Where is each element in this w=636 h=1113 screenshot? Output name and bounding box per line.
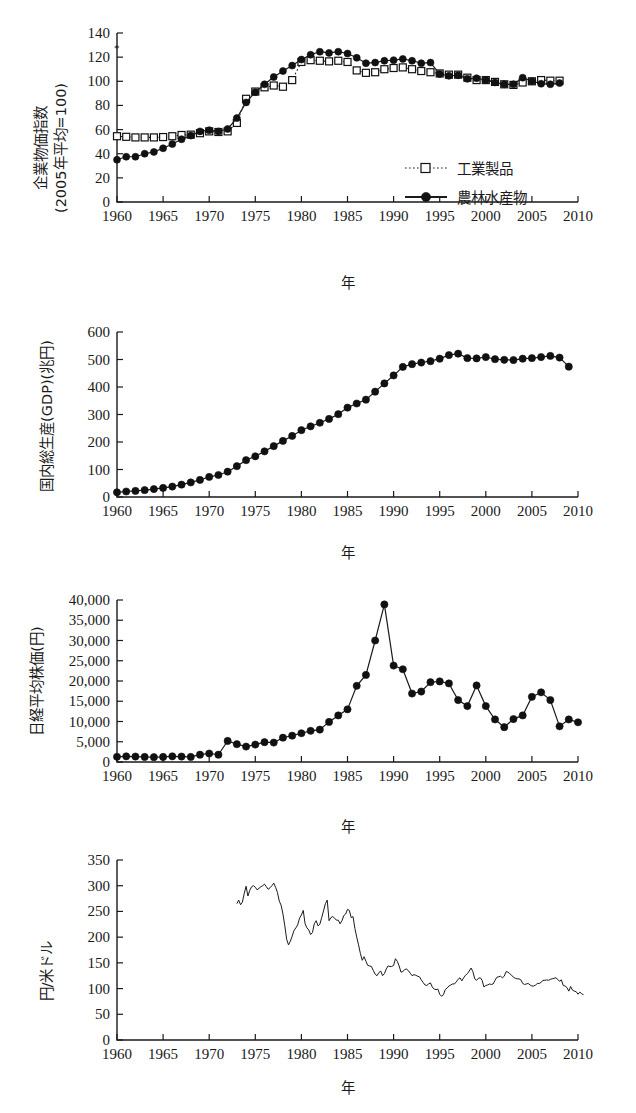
gdp-data-point <box>510 356 517 363</box>
panel-fx: 050100150200250300350 196019651970197519… <box>0 843 636 1113</box>
cgpi-y-axis-label-line2: (2005年平均=100) <box>53 83 69 213</box>
nikkei-y-tick-labels: 05,00010,00015,00020,00025,00030,00035,0… <box>69 592 110 770</box>
legend-label-agriculture: 農林水産物 <box>457 190 527 206</box>
fx-x-tick-label: 1980 <box>286 1046 316 1062</box>
cgpi-data-point <box>123 153 130 160</box>
nikkei-data-point <box>196 751 203 758</box>
fx-y-tick-label: 200 <box>88 929 111 945</box>
cgpi-data-point <box>169 133 176 140</box>
gdp-data-point <box>381 380 388 387</box>
nikkei-data-point <box>482 703 489 710</box>
cgpi-data-point <box>316 57 323 64</box>
nikkei-data-point <box>574 719 581 726</box>
cgpi-data-point <box>123 133 130 140</box>
cgpi-data-point <box>132 134 139 141</box>
fx-y-tick-label: 300 <box>88 878 111 894</box>
cgpi-data-point <box>150 148 157 155</box>
cgpi-data-point <box>132 153 139 160</box>
cgpi-data-point <box>243 99 250 106</box>
gdp-data-point <box>501 356 508 363</box>
gdp-data-point <box>261 448 268 455</box>
fx-x-axis-label: 年 <box>341 1080 355 1096</box>
cgpi-data-point <box>178 136 185 143</box>
nikkei-x-tick-label: 1995 <box>425 768 455 784</box>
cgpi-data-point <box>492 79 499 86</box>
cgpi-line-農林水産物 <box>117 52 560 160</box>
cgpi-data-point <box>289 77 296 84</box>
fx-y-axis-label: 円/米ドル <box>39 941 55 1002</box>
nikkei-axis-lines <box>117 600 578 762</box>
gdp-y-tick-label: 600 <box>88 324 111 340</box>
nikkei-y-tick-label: 5,000 <box>76 734 110 750</box>
nikkei-chart: 05,00010,00015,00020,00025,00030,00035,0… <box>0 570 636 843</box>
nikkei-data-point <box>307 727 314 734</box>
cgpi-x-tick-label: 1985 <box>333 208 363 224</box>
gdp-data-point <box>408 361 415 368</box>
cgpi-x-tick-label: 1995 <box>425 208 455 224</box>
gdp-data-point <box>473 355 480 362</box>
cgpi-data-point <box>344 58 351 65</box>
nikkei-data-point <box>519 712 526 719</box>
cgpi-data-point <box>390 57 397 64</box>
nikkei-data-point <box>279 734 286 741</box>
cgpi-line-工業製品 <box>117 60 560 137</box>
cgpi-data-point <box>519 74 526 81</box>
gdp-data-point <box>113 489 120 496</box>
cgpi-y-tick-label: 60 <box>95 122 110 138</box>
cgpi-data-point <box>362 60 369 67</box>
cgpi-data-point <box>326 58 333 65</box>
gdp-data-point <box>150 485 157 492</box>
cgpi-data-point <box>556 80 563 87</box>
cgpi-y-tick-label: 140 <box>88 25 111 41</box>
nikkei-data-point <box>169 753 176 760</box>
cgpi-data-point <box>187 132 194 139</box>
nikkei-data-point <box>160 753 167 760</box>
nikkei-data-point <box>178 753 185 760</box>
gdp-data-point <box>316 419 323 426</box>
nikkei-x-tick-label: 1985 <box>333 768 363 784</box>
cgpi-data-point <box>436 71 443 78</box>
fx-y-tick-labels: 050100150200250300350 <box>88 852 111 1048</box>
gdp-data-point <box>519 355 526 362</box>
gdp-x-tick-label: 1965 <box>148 503 178 519</box>
gdp-data-point <box>132 487 139 494</box>
cgpi-data-point <box>538 80 545 87</box>
gdp-data-point <box>279 437 286 444</box>
nikkei-data-point <box>187 753 194 760</box>
gdp-data-point <box>289 432 296 439</box>
nikkei-data-point <box>547 696 554 703</box>
gdp-x-tick-label: 1970 <box>194 503 224 519</box>
fx-y-tick-label: 50 <box>95 1006 110 1022</box>
cgpi-legend: 工業製品 農林水産物 <box>405 161 527 206</box>
gdp-x-tick-label: 2010 <box>563 503 593 519</box>
cgpi-data-point <box>353 67 360 74</box>
gdp-data-point <box>418 359 425 366</box>
nikkei-x-axis-label: 年 <box>341 819 355 835</box>
cgpi-data-point <box>381 57 388 64</box>
nikkei-data-point <box>473 682 480 689</box>
gdp-data-point <box>372 388 379 395</box>
cgpi-data-point <box>270 82 277 89</box>
nikkei-data-point <box>344 706 351 713</box>
nikkei-y-tick-label: 15,000 <box>69 693 110 709</box>
gdp-x-tick-label: 1995 <box>425 503 455 519</box>
nikkei-data-point <box>242 743 249 750</box>
gdp-tick-marks <box>117 332 578 497</box>
gdp-data-point <box>123 488 130 495</box>
gdp-x-axis-label: 年 <box>341 545 355 561</box>
cgpi-data-point <box>362 69 369 76</box>
legend-label-industrial: 工業製品 <box>457 161 513 177</box>
cgpi-x-tick-label: 2000 <box>471 208 501 224</box>
fx-axis-lines <box>117 860 578 1040</box>
cgpi-y-tick-label: 100 <box>88 73 111 89</box>
fx-x-tick-label: 1985 <box>333 1046 363 1062</box>
gdp-line-国内総生産(GDP) <box>117 354 569 493</box>
cgpi-data-point <box>316 48 323 55</box>
fx-x-tick-label: 1975 <box>240 1046 270 1062</box>
fx-y-tick-label: 250 <box>88 903 111 919</box>
gdp-y-axis-label: 国内総生産(GDP)(兆円) <box>39 340 55 492</box>
nikkei-data-point <box>381 601 388 608</box>
nikkei-x-tick-label: 1990 <box>379 768 409 784</box>
legend-entry-agriculture: 農林水産物 <box>405 190 527 206</box>
cgpi-data-point <box>501 81 508 88</box>
